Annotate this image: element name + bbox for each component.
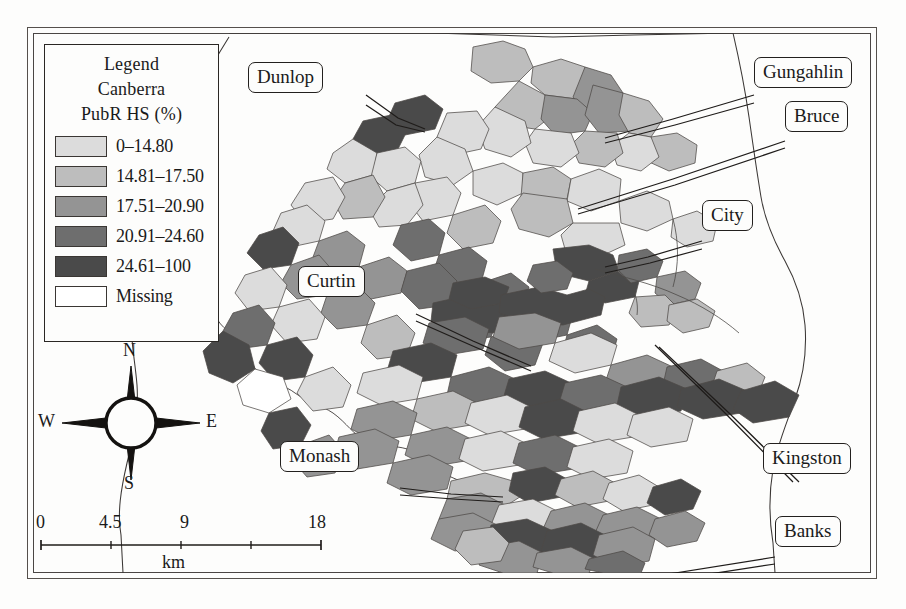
scale-tick-label-4-5: 4.5	[99, 512, 122, 533]
legend-entry: 24.61–100	[55, 251, 218, 281]
compass-label-south: S	[124, 473, 134, 494]
legend-swatch-1	[55, 166, 107, 187]
compass-label-east: E	[206, 411, 217, 432]
legend-label-1: 14.81–17.50	[116, 166, 204, 187]
map-label-curtin[interactable]: Curtin	[298, 266, 365, 297]
legend-entry-list: 0–14.80 14.81–17.50 17.51–20.90 20.91–24…	[45, 131, 218, 311]
legend-swatch-2	[55, 196, 107, 217]
legend-swatch-4	[55, 256, 107, 277]
legend-label-5: Missing	[116, 286, 173, 307]
figure-root: Legend Canberra PubR HS (%) 0–14.80 14.8…	[0, 0, 906, 609]
legend-title-line-3: PubR HS (%)	[45, 102, 218, 127]
legend-swatch-3	[55, 226, 107, 247]
legend-entry: 20.91–24.60	[55, 221, 218, 251]
map-label-dunlop[interactable]: Dunlop	[248, 62, 323, 93]
legend-title-line-2: Canberra	[45, 77, 218, 102]
compass-label-west: W	[38, 411, 55, 432]
scale-unit-label: km	[162, 552, 185, 573]
sa1-polygon-layer	[203, 41, 799, 573]
map-label-gungahlin[interactable]: Gungahlin	[754, 57, 852, 88]
legend-swatch-5	[55, 286, 107, 307]
legend-label-3: 20.91–24.60	[116, 226, 204, 247]
compass-rose: N S W E	[36, 348, 226, 498]
map-label-kingston[interactable]: Kingston	[763, 443, 851, 474]
scale-tick-label-0: 0	[36, 512, 45, 533]
legend-entry: Missing	[55, 281, 218, 311]
legend-entry: 14.81–17.50	[55, 161, 218, 191]
legend-title-line-1: Legend	[45, 52, 218, 77]
legend-entry: 17.51–20.90	[55, 191, 218, 221]
legend-swatch-0	[55, 136, 107, 157]
legend-label-2: 17.51–20.90	[116, 196, 204, 217]
scale-bar: 0 4.5 9 18 km	[36, 512, 356, 582]
scale-tick-label-9: 9	[180, 512, 189, 533]
legend-entry: 0–14.80	[55, 131, 218, 161]
legend-box: Legend Canberra PubR HS (%) 0–14.80 14.8…	[44, 44, 219, 342]
compass-label-north: N	[123, 340, 136, 361]
map-label-banks[interactable]: Banks	[775, 516, 841, 547]
map-label-monash[interactable]: Monash	[280, 441, 359, 472]
map-label-bruce[interactable]: Bruce	[785, 101, 848, 132]
map-label-city[interactable]: City	[702, 200, 753, 231]
legend-label-0: 0–14.80	[116, 136, 173, 157]
legend-label-4: 24.61–100	[116, 256, 191, 277]
scale-tick-label-18: 18	[308, 512, 326, 533]
scale-bar-line	[39, 536, 339, 556]
